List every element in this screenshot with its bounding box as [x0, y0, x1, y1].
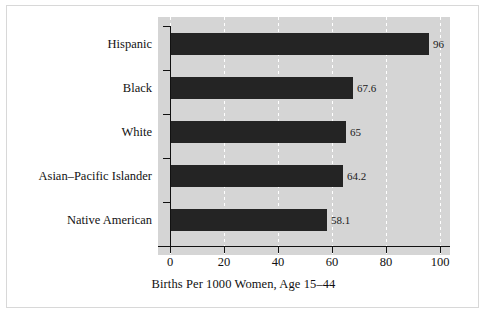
- x-axis-tick-80: [386, 246, 387, 253]
- x-axis-tick-20: [224, 246, 225, 253]
- category-label-native-american: Native American: [67, 209, 152, 231]
- y-axis-tick-4: [163, 202, 171, 203]
- x-axis-tick-label-100: 100: [431, 255, 450, 270]
- plot-area: [158, 17, 450, 255]
- x-axis-tick-0: [170, 246, 171, 253]
- y-axis-line: [170, 26, 171, 246]
- gridline-80: [386, 17, 387, 255]
- x-axis-line: [158, 246, 450, 247]
- x-axis-tick-label-20: 20: [218, 255, 231, 270]
- x-axis-tick-label-40: 40: [272, 255, 285, 270]
- category-label-white: White: [121, 121, 152, 143]
- x-axis-tick-40: [278, 246, 279, 253]
- category-axis-labels: Hispanic Black White Asian–Pacific Islan…: [0, 0, 152, 315]
- x-axis-tick-60: [332, 246, 333, 253]
- x-axis-tick-100: [440, 246, 441, 253]
- y-axis-tick-3: [163, 158, 171, 159]
- x-axis-title: Births Per 1000 Women, Age 15–44: [0, 277, 487, 292]
- y-axis-tick-2: [163, 114, 171, 115]
- y-axis-tick-0: [163, 26, 171, 27]
- category-label-hispanic: Hispanic: [108, 33, 152, 55]
- gridline-20: [224, 17, 225, 255]
- x-axis-tick-label-60: 60: [326, 255, 339, 270]
- gridline-40: [278, 17, 279, 255]
- gridline-100: [440, 17, 441, 255]
- x-axis-tick-label-80: 80: [380, 255, 393, 270]
- category-label-black: Black: [123, 77, 152, 99]
- y-axis-tick-1: [163, 70, 171, 71]
- chart-figure: Hispanic Black White Asian–Pacific Islan…: [0, 0, 487, 315]
- x-axis-tick-label-0: 0: [167, 255, 173, 270]
- category-label-asian-pacific-islander: Asian–Pacific Islander: [38, 165, 152, 187]
- gridline-60: [332, 17, 333, 255]
